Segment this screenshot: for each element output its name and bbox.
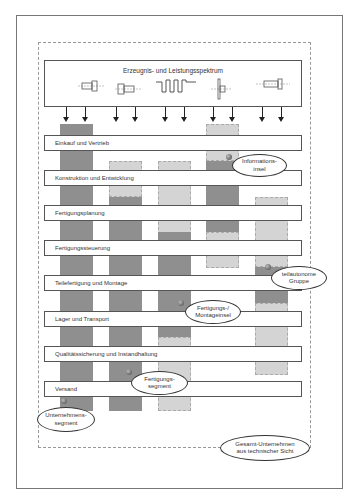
callout-informationsinsel: Informations- insel bbox=[232, 154, 287, 177]
arrow-down-icon bbox=[232, 107, 233, 118]
callout-unternehmenssegment: Unternehmens- segment bbox=[37, 407, 95, 432]
function-row-fertigungsplanung: Fertigungsplanung bbox=[44, 205, 302, 221]
function-row-lager: Lager und Transport bbox=[44, 311, 302, 327]
bolt-icon bbox=[256, 78, 290, 90]
arrow-down-icon bbox=[262, 107, 263, 118]
pin-icon bbox=[226, 154, 232, 160]
arrow-down-icon bbox=[184, 107, 185, 118]
function-row-fertigungssteuerung: Fertigungssteuerung bbox=[44, 240, 302, 256]
segment-bar bbox=[60, 124, 93, 411]
function-row-teilefertigung: Teilefertigung und Montage bbox=[44, 275, 302, 291]
callout-fertigungssegment: Fertigungs- segment bbox=[131, 371, 188, 395]
pin-icon bbox=[126, 369, 132, 375]
pin-icon bbox=[265, 264, 271, 270]
arrow-down-icon bbox=[116, 107, 117, 118]
part-1-icon bbox=[78, 80, 104, 92]
part-2-icon bbox=[115, 82, 141, 96]
arrow-down-icon bbox=[66, 107, 67, 118]
function-row-qualitaet: Qualitätssicherung und Instandhaltung bbox=[44, 346, 302, 362]
shaft-flange-icon bbox=[211, 78, 231, 100]
arrow-down-icon bbox=[213, 107, 214, 118]
arrow-down-icon bbox=[281, 107, 282, 118]
callout-teilautonome-gruppe: teilautonome Gruppe bbox=[271, 266, 327, 290]
pin-icon bbox=[61, 398, 67, 404]
crankshaft-icon bbox=[156, 77, 196, 95]
arrow-down-icon bbox=[135, 107, 136, 118]
arrow-down-icon bbox=[85, 107, 86, 118]
pin-icon bbox=[178, 300, 184, 306]
product-spectrum-title: Erzeugnis- und Leistungsspektrum bbox=[45, 67, 301, 74]
arrow-down-icon bbox=[165, 107, 166, 118]
callout-fertigungs-montageinsel: Fertigungs-/ Montageinsel bbox=[185, 300, 241, 324]
callout-gesamt-unternehmen: Gesamt-Unternehmen aus technischer Sicht bbox=[220, 435, 310, 461]
function-row-einkauf: Einkauf und Vertrieb bbox=[44, 135, 302, 151]
